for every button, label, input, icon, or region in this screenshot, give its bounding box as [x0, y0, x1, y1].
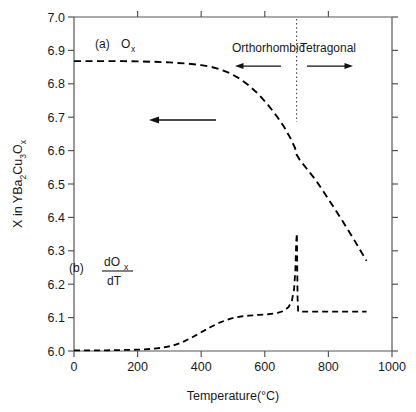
y-tick-label-6.4: 6.4: [48, 211, 65, 225]
x-axis-title: Temperature(°C): [187, 389, 280, 403]
y-axis-title-o: O: [11, 144, 25, 154]
y-axis-title-mid: Cu: [11, 159, 25, 175]
y-tick-label-6.7: 6.7: [48, 111, 65, 125]
y-tick-label-6.0: 6.0: [48, 345, 65, 359]
x-tick-label-200: 200: [127, 360, 148, 374]
series-b-numerator: dO: [104, 255, 120, 269]
y-axis-title-sub3: x: [18, 139, 28, 144]
y-tick-label-6.2: 6.2: [48, 278, 65, 292]
x-tick-label-0: 0: [71, 360, 78, 374]
orthorhombic-label: Orthorhombic: [232, 41, 305, 55]
y-tick-label-6.3: 6.3: [48, 244, 65, 258]
y-tick-label-6.8: 6.8: [48, 77, 65, 91]
x-tick-label-1000: 1000: [378, 360, 406, 374]
series-b-prefix: (b): [69, 261, 84, 275]
chart-container: 6.06.16.26.36.46.56.66.76.86.97.0 020040…: [0, 0, 416, 412]
tetragonal-label: Tetragonal: [300, 41, 356, 55]
y-tick-label-6.5: 6.5: [48, 178, 65, 192]
y-axis-title-prefix: X in YBa: [11, 179, 25, 227]
x-tick-label-400: 400: [191, 360, 212, 374]
series-a-symbol: O: [121, 37, 130, 51]
x-tick-label-600: 600: [254, 360, 275, 374]
y-tick-label-6.9: 6.9: [48, 44, 65, 58]
series-b-denominator: dT: [107, 274, 122, 288]
series-a-prefix: (a): [95, 37, 110, 51]
y-tick-label-6.6: 6.6: [48, 144, 65, 158]
x-tick-label-800: 800: [318, 360, 339, 374]
y-tick-label-7.0: 7.0: [48, 11, 65, 25]
oxygen-content-vs-temperature-chart: 6.06.16.26.36.46.56.66.76.86.97.0 020040…: [0, 0, 416, 412]
y-tick-label-6.1: 6.1: [48, 311, 65, 325]
